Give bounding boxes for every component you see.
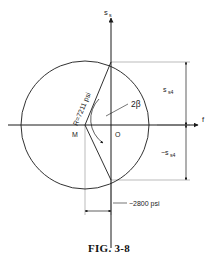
radius-line-lower: [85, 125, 111, 180]
dimension-lower-subscript: s4: [170, 152, 176, 158]
figure-caption: FIG. 3-8: [0, 242, 218, 254]
dimension-vertical-lower: −s s4: [161, 125, 186, 180]
dimension-lower-label: −s: [161, 149, 169, 156]
origin-point-label: O: [115, 131, 121, 138]
vertical-axis-label-group: s s: [104, 8, 112, 18]
angle-leader-line: [106, 104, 128, 116]
angle-label: 2β: [131, 99, 141, 109]
dimension-bottom: −2800 psi: [85, 200, 160, 211]
horizontal-axis-label: f: [202, 115, 205, 124]
figure-container: R=7211 psi 2β M O s s f s s4 −s s4 −2800…: [0, 0, 218, 265]
axes: [8, 18, 198, 248]
mohrs-circle-diagram: R=7211 psi 2β M O s s f s s4 −s s4 −2800…: [0, 0, 218, 265]
center-point-label: M: [72, 131, 78, 138]
dimension-bottom-label: −2800 psi: [129, 200, 160, 208]
vertical-axis-label-subscript: s: [109, 12, 112, 18]
radius-lines: [85, 62, 111, 180]
dimension-vertical-upper: s s4: [163, 62, 186, 125]
radius-label: R=7211 psi: [72, 91, 93, 127]
extension-lines: [85, 62, 190, 215]
vertical-axis-label: s: [104, 8, 108, 17]
dimension-upper-subscript: s4: [168, 89, 174, 95]
dimension-upper-label: s: [163, 86, 167, 93]
